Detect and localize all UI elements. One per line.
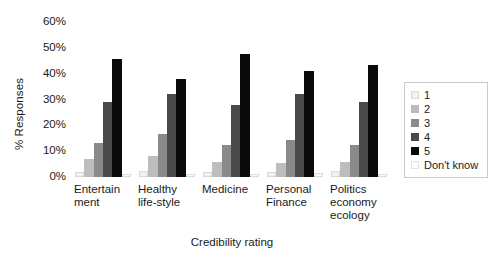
bar	[75, 172, 84, 177]
legend-swatch-icon	[411, 119, 419, 127]
legend-item-label: 5	[424, 146, 430, 157]
bar	[378, 174, 387, 177]
y-axis-tick-label: 40%	[26, 68, 66, 80]
bar	[186, 174, 195, 177]
y-axis-title: % Responses	[13, 64, 25, 164]
bar-chart: % Responses 60%50%40%30%20%10%0% Enterta…	[0, 0, 489, 265]
bar	[340, 162, 349, 178]
x-axis-tick-label: Medicine	[202, 183, 248, 196]
bar	[359, 102, 368, 177]
bar	[139, 171, 148, 177]
bar	[148, 156, 157, 177]
bar	[295, 94, 304, 177]
bar	[314, 173, 323, 177]
bar	[203, 172, 212, 177]
bar	[368, 65, 377, 177]
x-axis-tick-label: Personal Finance	[266, 183, 311, 209]
bar-group	[75, 22, 131, 177]
legend-item: 1	[411, 88, 487, 102]
bar	[158, 134, 167, 177]
legend-swatch-icon	[411, 161, 419, 169]
legend-item-label: 4	[424, 132, 430, 143]
bar	[250, 174, 259, 177]
legend-swatch-icon	[411, 133, 419, 141]
bar	[167, 94, 176, 177]
legend-swatch-icon	[411, 91, 419, 99]
bar-group	[203, 22, 259, 177]
x-axis-tick-label: Politics economy ecology	[330, 183, 377, 223]
y-axis-tick-label: 50%	[26, 42, 66, 54]
bar	[122, 174, 131, 177]
bar	[304, 71, 313, 177]
legend-item: 3	[411, 116, 487, 130]
y-axis-tick-label: 10%	[26, 145, 66, 157]
bar	[103, 102, 112, 177]
bar	[176, 79, 185, 177]
y-axis-tick-label: 60%	[26, 16, 66, 28]
legend-item: 4	[411, 130, 487, 144]
x-axis-tick-label: Healthy life-style	[138, 183, 180, 209]
bar	[276, 163, 285, 177]
x-axis-tick-labels: Entertain mentHealthy life-styleMedicine…	[60, 183, 405, 241]
y-axis-tick-label: 30%	[26, 94, 66, 106]
bar-group	[267, 22, 323, 177]
legend-item-label: 1	[424, 90, 430, 101]
legend-item: 2	[411, 102, 487, 116]
legend-item-label: 2	[424, 104, 430, 115]
legend-item-label: Don't know	[424, 160, 478, 171]
legend-item: Don't know	[411, 158, 487, 172]
bar	[231, 105, 240, 177]
chart-legend: 12345Don't know	[404, 82, 488, 178]
bar	[84, 159, 93, 177]
bar	[222, 145, 231, 177]
legend-swatch-icon	[411, 105, 419, 113]
y-axis-tick-label: 0%	[26, 171, 66, 183]
legend-item-label: 3	[424, 118, 430, 129]
bar-group	[331, 22, 387, 177]
x-axis-tick-label: Entertain ment	[74, 183, 120, 209]
bar	[240, 54, 249, 177]
y-axis-tick-label: 20%	[26, 119, 66, 131]
plot-area	[72, 22, 392, 177]
bar-group	[139, 22, 195, 177]
bar	[212, 162, 221, 178]
bar	[286, 140, 295, 177]
x-axis-title: Credibility rating	[72, 236, 392, 248]
bar	[112, 59, 121, 177]
bar	[331, 171, 340, 177]
bar	[267, 172, 276, 177]
bar	[94, 143, 103, 177]
legend-item: 5	[411, 144, 487, 158]
bar	[350, 145, 359, 177]
legend-swatch-icon	[411, 147, 419, 155]
